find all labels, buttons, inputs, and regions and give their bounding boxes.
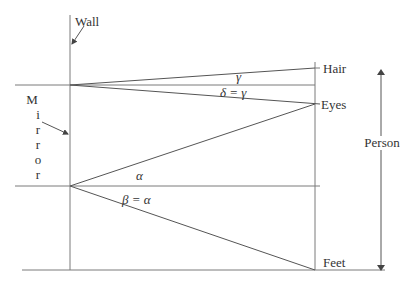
- feet-label: Feet: [323, 255, 346, 270]
- person-label: Person: [364, 135, 400, 150]
- hair-label: Hair: [323, 61, 347, 76]
- mirror-letter-m: M: [26, 92, 38, 107]
- mirror-diagram: Wall M i r r o r Hair Eyes Feet Person γ…: [0, 0, 414, 284]
- ray-mirror-bottom-to-eyes: [70, 104, 315, 186]
- mirror-letter-r3: r: [36, 167, 41, 182]
- mirror-letter-o: o: [35, 152, 42, 167]
- alpha-angle-label: α: [136, 168, 144, 183]
- mirror-letter-r1: r: [36, 122, 41, 137]
- mirror-letter-r2: r: [36, 137, 41, 152]
- beta-alpha-angle-label: β = α: [121, 192, 152, 207]
- mirror-letter-i: i: [36, 107, 40, 122]
- wall-label: Wall: [75, 14, 100, 29]
- ray-mirror-top-to-hair: [70, 68, 315, 85]
- ray-mirror-top-to-eyes: [70, 85, 320, 104]
- mirror-pointer-arrow: [42, 122, 68, 134]
- eyes-label: Eyes: [321, 97, 346, 112]
- delta-gamma-angle-label: δ = γ: [220, 85, 247, 100]
- gamma-angle-label: γ: [236, 69, 242, 84]
- ray-mirror-bottom-to-feet: [70, 186, 315, 270]
